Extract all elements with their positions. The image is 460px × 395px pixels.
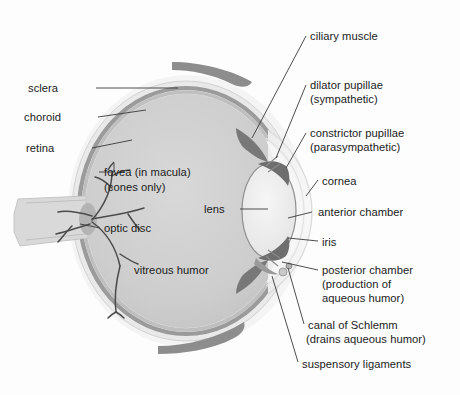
label-suspensory-ligaments: suspensory ligaments	[302, 357, 411, 372]
label-choroid: choroid	[24, 110, 61, 125]
label-posterior-chamber-line3: aqueous humor)	[322, 291, 404, 306]
label-dilator-line2: (sympathetic)	[310, 92, 378, 107]
label-iris: iris	[322, 235, 337, 250]
label-dilator-line1: dilator pupillae	[310, 78, 383, 93]
label-constrictor-line2: (parasympathetic)	[310, 140, 400, 155]
label-lens: lens	[204, 202, 225, 217]
label-vitreous-humor: vitreous humor	[134, 263, 209, 278]
label-posterior-chamber-line1: posterior chamber	[322, 263, 413, 278]
label-retina: retina	[26, 141, 54, 156]
eye-diagram: sclera choroid retina fovea (in macula) …	[0, 0, 460, 395]
label-schlemm-line2: (drains aqueous humor)	[306, 332, 426, 347]
label-constrictor-line1: constrictor pupillae	[310, 126, 404, 141]
optic-nerve	[14, 196, 97, 246]
label-posterior-chamber-line2: (production of	[322, 277, 391, 292]
label-ciliary-muscle: ciliary muscle	[310, 29, 378, 44]
label-sclera: sclera	[28, 81, 58, 96]
label-schlemm-line1: canal of Schlemm	[308, 318, 398, 333]
leader-schlemm	[288, 268, 304, 324]
label-fovea-line2: (cones only)	[104, 180, 166, 195]
label-cornea: cornea	[322, 174, 357, 189]
label-optic-disc: optic disc	[104, 221, 151, 236]
label-anterior-chamber: anterior chamber	[318, 205, 403, 220]
label-fovea-line1: fovea (in macula)	[104, 165, 191, 180]
